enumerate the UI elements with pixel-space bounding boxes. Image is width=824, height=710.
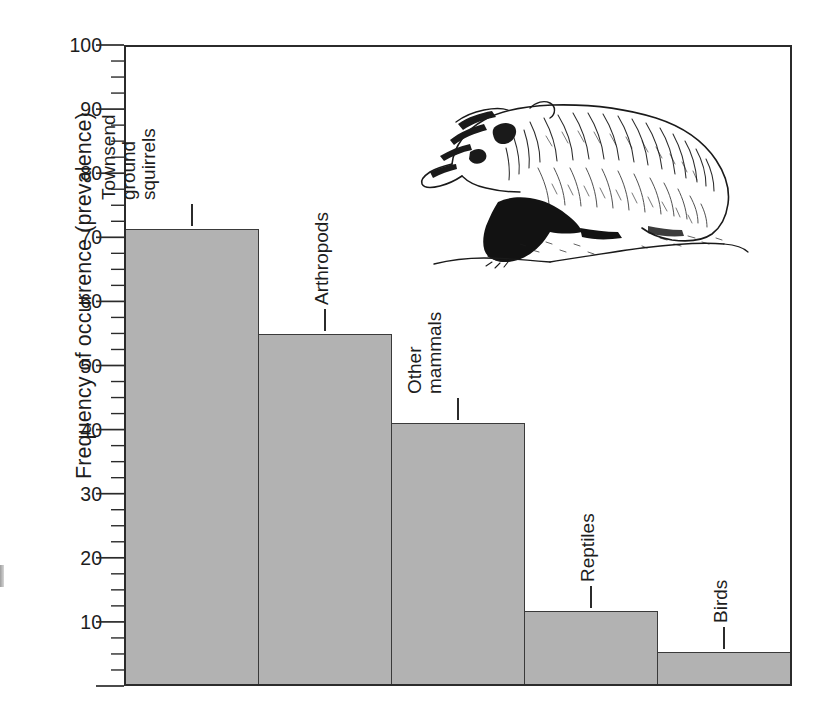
y-tick-label: 60	[56, 290, 102, 313]
bar-category-label: Reptiles	[578, 513, 598, 582]
y-tick-label: 40	[56, 418, 102, 441]
bar: Townsendgroundsquirrels	[126, 229, 259, 684]
leader-line	[590, 586, 592, 608]
bar: Birds	[658, 652, 790, 684]
leader-line	[191, 204, 193, 226]
bar-chart-figure: Frequency of occurrence (prevalence) 100…	[0, 0, 824, 710]
bar-series: TownsendgroundsquirrelsArthropodsOtherma…	[126, 47, 790, 684]
y-tick-label: 80	[56, 162, 102, 185]
y-tick-label: 20	[56, 546, 102, 569]
bar: Arthropods	[259, 334, 392, 684]
y-tick-label: 70	[56, 226, 102, 249]
y-tick-label: 10	[56, 610, 102, 633]
y-tick-label: 90	[56, 98, 102, 121]
bar-category-label: Arthropods	[312, 212, 332, 305]
y-tick-label: 30	[56, 482, 102, 505]
y-tick-label: 50	[56, 354, 102, 377]
leader-line	[324, 309, 326, 331]
leader-line	[457, 398, 459, 420]
bar-category-label: Birds	[711, 580, 731, 623]
leader-line	[723, 627, 725, 649]
bar-category-label: Townsendgroundsquirrels	[99, 114, 159, 200]
scan-artifact	[0, 565, 4, 587]
bar-category-label: Othermammals	[405, 312, 445, 394]
bar: Othermammals	[392, 423, 525, 684]
y-axis-tick-labels: 100908070605040302010	[56, 0, 102, 710]
plot-area: TownsendgroundsquirrelsArthropodsOtherma…	[124, 45, 792, 686]
y-tick-label: 100	[56, 34, 102, 57]
bar: Reptiles	[525, 611, 658, 684]
